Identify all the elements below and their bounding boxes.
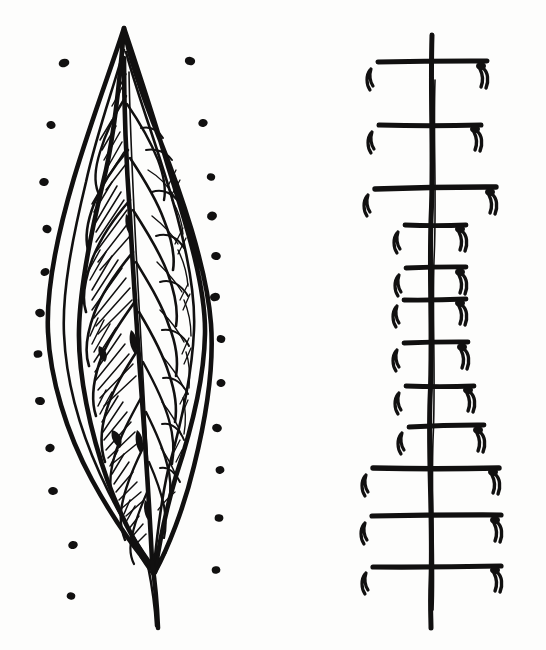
rung-right-blob-12: [490, 566, 500, 574]
rung-bar-11: [372, 515, 501, 516]
rung-bar-4: [405, 225, 466, 226]
rung-bar-1: [378, 61, 487, 62]
rung-bar-9: [409, 425, 484, 427]
rung-bar-8: [406, 386, 474, 387]
rung-right-blob-8: [463, 386, 473, 394]
rung-right-blob-10: [488, 468, 498, 476]
rung-right-blob-11: [490, 516, 500, 524]
rung-right-blob-2: [470, 125, 480, 133]
rung-right-blob-6: [455, 299, 465, 307]
rung-bar-10: [373, 468, 499, 469]
rung-bar-2: [379, 125, 481, 126]
drawing-canvas: leaf dots ladder Hand-drawn leaf with do…: [0, 0, 546, 650]
rung-bar-6: [404, 299, 466, 300]
rung-bar-12: [373, 566, 501, 567]
rung-right-blob-1: [476, 62, 486, 70]
rung-bar-5: [406, 267, 466, 268]
rung-bar-3: [375, 187, 496, 189]
rung-bar-7: [404, 342, 468, 343]
rung-right-blob-5: [455, 268, 465, 276]
rung-right-blob-4: [455, 225, 465, 233]
artboard: [0, 0, 546, 650]
rung-right-blob-9: [473, 426, 483, 434]
rung-right-blob-3: [485, 188, 495, 196]
rung-right-blob-7: [457, 343, 467, 351]
